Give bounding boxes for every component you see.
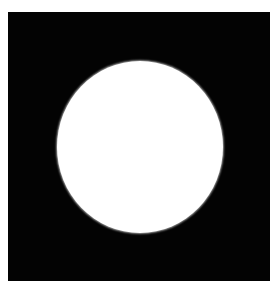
white-circle [57, 61, 223, 233]
black-square-background [8, 12, 270, 281]
